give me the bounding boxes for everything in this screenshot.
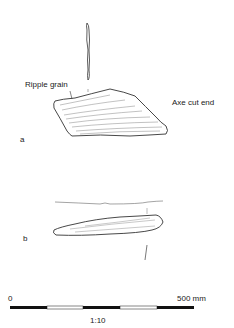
section-a-profile <box>87 23 90 80</box>
scale-bar <box>10 306 194 309</box>
view-a-label: a <box>20 135 24 145</box>
axe-cut-end-label: Axe cut end <box>172 98 214 108</box>
view-b-label: b <box>23 234 27 244</box>
grain-lines-b <box>70 218 155 232</box>
scale-ratio-label: 1:10 <box>90 316 106 326</box>
drawing-canvas <box>0 0 234 328</box>
scale-end-label: 500 mm <box>177 294 206 304</box>
section-b-profile <box>55 201 163 204</box>
scale-start-label: 0 <box>8 294 12 304</box>
board-b-outline <box>53 215 163 235</box>
section-b-cut-mark <box>145 245 147 260</box>
ripple-grain-label: Ripple grain <box>25 80 68 90</box>
grain-lines-a <box>60 95 162 134</box>
ripple-grain-leader <box>70 91 72 99</box>
